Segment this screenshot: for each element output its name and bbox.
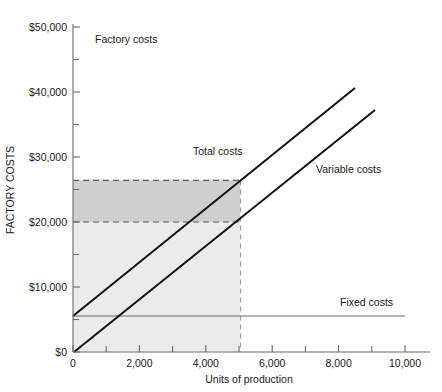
x-tick-label-8000: 8,000 xyxy=(325,357,351,369)
annotation-total-costs: Total costs xyxy=(193,145,243,157)
annotation-fixed-costs: Fixed costs xyxy=(340,296,393,308)
x-tick-label-0: 0 xyxy=(70,357,76,369)
shaded-regions xyxy=(73,180,240,352)
chart-canvas: $0 $10,000 $20,000 $30,000 $40,000 $50,0… xyxy=(0,0,442,392)
annotation-variable-costs: Variable costs xyxy=(316,163,381,175)
x-tick-label-2000: 2,000 xyxy=(126,357,152,369)
y-axis-tick-labels: $0 $10,000 $20,000 $30,000 $40,000 $50,0… xyxy=(29,21,67,358)
y-axis-title: FACTORY COSTS xyxy=(4,146,16,234)
y-tick-label-40000: $40,000 xyxy=(29,86,67,98)
x-tick-label-10000: 10,000 xyxy=(389,357,421,369)
x-axis-tick-labels: 0 2,000 4,000 6,000 8,000 10,000 xyxy=(70,357,421,369)
y-tick-label-0: $0 xyxy=(55,346,67,358)
x-axis-title: Units of production xyxy=(205,373,293,385)
y-tick-label-30000: $30,000 xyxy=(29,151,67,163)
factory-costs-chart: $0 $10,000 $20,000 $30,000 $40,000 $50,0… xyxy=(0,0,442,392)
y-tick-label-10000: $10,000 xyxy=(29,281,67,293)
y-tick-label-50000: $50,000 xyxy=(29,21,67,33)
annotation-factory-costs: Factory costs xyxy=(95,33,157,45)
x-tick-label-4000: 4,000 xyxy=(193,357,219,369)
x-tick-label-6000: 6,000 xyxy=(259,357,285,369)
y-tick-label-20000: $20,000 xyxy=(29,216,67,228)
